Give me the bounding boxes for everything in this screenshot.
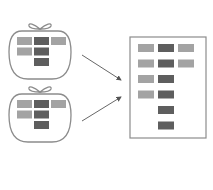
cell-light	[138, 44, 154, 52]
merged-document	[130, 37, 206, 138]
merge-diagram	[0, 0, 213, 190]
cell-light	[51, 100, 66, 108]
cell-dark	[158, 60, 174, 68]
cell-light	[17, 48, 32, 56]
cell-dark	[34, 37, 49, 45]
bow-icon	[29, 24, 51, 29]
cell-light	[178, 44, 194, 52]
arrow-icon	[82, 97, 121, 121]
cell-light	[138, 60, 154, 68]
cell-light	[51, 37, 66, 45]
cell-light	[17, 100, 32, 108]
cell-dark	[34, 48, 49, 56]
cell-dark	[158, 122, 174, 130]
bag-2	[9, 87, 71, 142]
cell-dark	[158, 106, 174, 114]
cell-light	[17, 37, 32, 45]
bag-1	[9, 24, 71, 79]
cell-dark	[34, 58, 49, 66]
cell-dark	[34, 100, 49, 108]
cell-dark	[158, 91, 174, 99]
bow-icon	[29, 87, 51, 92]
cell-dark	[158, 75, 174, 83]
cell-light	[138, 75, 154, 83]
cell-dark	[34, 121, 49, 129]
cell-light	[178, 60, 194, 68]
cell-light	[138, 91, 154, 99]
arrow-icon	[82, 55, 121, 80]
cell-light	[17, 111, 32, 119]
cell-dark	[158, 44, 174, 52]
cell-dark	[34, 111, 49, 119]
